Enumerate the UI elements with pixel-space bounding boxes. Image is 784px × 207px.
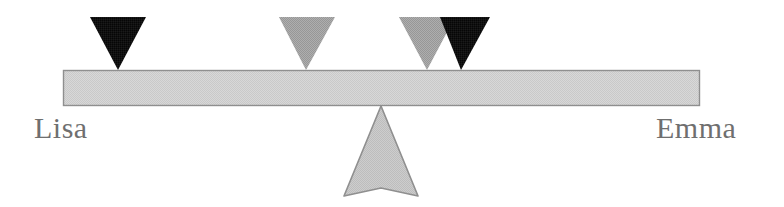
right-side-label: Emma: [656, 113, 736, 143]
fulcrum-shape: [344, 106, 418, 196]
balance-beam: [64, 71, 700, 106]
weights-group: [90, 17, 490, 70]
fulcrum: [344, 106, 418, 196]
beam-shape: [64, 71, 700, 106]
balance-scale-figure: Lisa Emma: [0, 0, 784, 207]
weight-triangle-black-4: [440, 17, 490, 70]
balance-scale-canvas: [0, 0, 784, 207]
weight-triangle-black-1: [90, 17, 146, 70]
left-side-label: Lisa: [34, 113, 88, 143]
weight-triangle-gray-2: [279, 17, 335, 70]
